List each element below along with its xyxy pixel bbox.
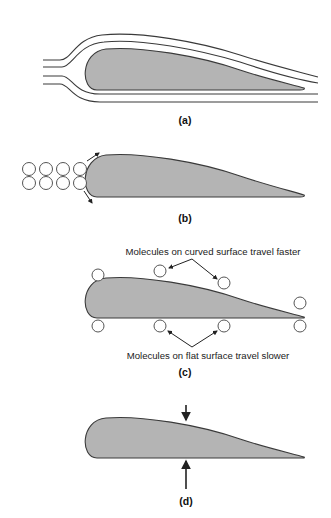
airfoil-c [85,277,304,318]
arrow-curved-2 [192,259,217,279]
flat-surface-note: Molecules on flat surface travel slower [127,350,290,361]
airfoil-d [85,417,304,458]
panel-a-label: (a) [179,114,192,126]
panel-c-label: (c) [179,366,192,378]
airfoil-b [85,154,304,197]
molecule-grid [23,163,87,190]
panel-b: (b) [23,153,305,224]
arrow-flat-2 [192,331,217,347]
panel-d: (d) [85,405,304,507]
panel-d-label: (d) [179,495,192,507]
panel-c: Molecules on curved surface travel faste… [85,246,306,378]
airfoil-lift-diagram: (a) (b) Molecules on curved surface trav… [0,0,331,518]
arrow-curved-1 [169,259,192,268]
curved-surface-note: Molecules on curved surface travel faste… [126,246,302,257]
airfoil-a [85,48,304,90]
arrow-flat-1 [168,331,192,347]
panel-a: (a) [43,34,318,126]
panel-b-label: (b) [178,212,191,224]
